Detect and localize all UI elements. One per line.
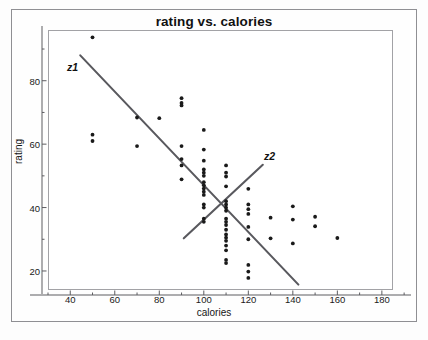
x-axis-title: calories <box>0 307 428 318</box>
y-tick-label: 20 <box>18 265 40 276</box>
x-tick-label: 60 <box>109 294 120 305</box>
trend-line-label-z2: z2 <box>264 150 275 162</box>
x-tick-label: 180 <box>374 294 390 305</box>
x-tick-label: 140 <box>285 294 301 305</box>
x-tick-label: 40 <box>65 294 76 305</box>
x-tick-label: 80 <box>154 294 165 305</box>
plot-area-frame <box>48 30 393 290</box>
x-tick-label: 100 <box>196 294 212 305</box>
y-tick-label: 80 <box>18 75 40 86</box>
chart-figure: rating vs. calories 40608010012014016018… <box>0 0 428 340</box>
page-title: rating vs. calories <box>0 14 428 29</box>
y-axis-title: rating <box>13 122 24 182</box>
y-tick-label: 40 <box>18 202 40 213</box>
trend-line-label-z1: z1 <box>67 61 78 73</box>
x-tick-label: 160 <box>329 294 345 305</box>
x-tick-label: 120 <box>240 294 256 305</box>
